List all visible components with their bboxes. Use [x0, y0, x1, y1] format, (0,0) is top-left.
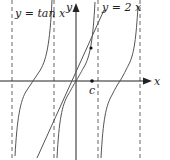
point-c-marker [90, 79, 94, 83]
y-axis-arrow-icon [73, 3, 80, 12]
line-label: y = 2 x [101, 1, 142, 14]
point-c-label: c [89, 84, 95, 97]
tan-vs-2x-diagram: y = tan x y = 2 x y x c [0, 0, 170, 160]
tan-branch-left [15, 0, 52, 156]
x-axis-arrow-icon [143, 78, 152, 85]
y-axis-label: y [65, 1, 73, 14]
tan-curve-label: y = tan x [14, 7, 66, 20]
tan-branch-right [101, 6, 138, 158]
intersection-point [89, 46, 92, 49]
x-axis-label: x [154, 75, 161, 88]
